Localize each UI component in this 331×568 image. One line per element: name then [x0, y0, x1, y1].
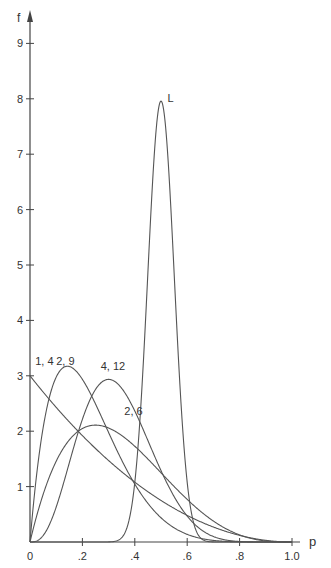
curve-2-9: [30, 366, 292, 542]
curve-label: L: [168, 92, 174, 104]
curve-l: [30, 101, 292, 542]
x-tick-label: 0: [27, 550, 33, 562]
axes: [27, 10, 300, 542]
x-axis-label: p: [309, 534, 316, 549]
curve-label: 4, 12: [101, 360, 125, 372]
y-tick-label: 7: [17, 148, 23, 160]
y-tick-label: 9: [17, 37, 23, 49]
y-tick-label: 2: [17, 425, 23, 437]
y-tick-label: 5: [17, 259, 23, 271]
curves: [30, 101, 292, 542]
x-tick-label: 1.0: [284, 550, 299, 562]
y-tick-label: 1: [17, 481, 23, 493]
y-tick-label: 6: [17, 204, 23, 216]
curve-2-6: [30, 425, 292, 542]
y-tick-label: 8: [17, 93, 23, 105]
y-axis-arrow-icon: [27, 10, 33, 22]
curve-label: 2, 6: [124, 405, 142, 417]
curve-label: 1, 4: [35, 355, 53, 367]
y-ticks: 123456789: [17, 37, 34, 492]
y-axis-label: f: [17, 11, 21, 25]
y-tick-label: 4: [17, 314, 23, 326]
x-tick-label: .8: [235, 550, 244, 562]
y-tick-label: 3: [17, 370, 23, 382]
curve-label: 2, 9: [56, 355, 74, 367]
x-tick-label: .2: [78, 550, 87, 562]
x-tick-label: .4: [130, 550, 139, 562]
curve-labels: 1, 42, 94, 122, 6L: [35, 92, 173, 417]
x-tick-label: .6: [183, 550, 192, 562]
beta-density-chart: f p 123456789 0.2.4.6.81.0 1, 42, 94, 12…: [0, 0, 331, 568]
